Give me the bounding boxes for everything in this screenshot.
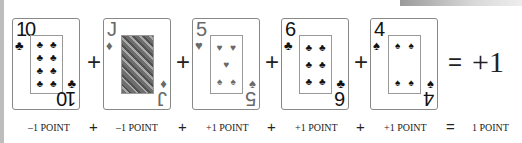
card-rank: 10	[58, 89, 76, 109]
card-five-of-hearts: 5 ♥ ♥♥ ♥ ♠♠ ♠ 5	[192, 18, 260, 110]
top-shadow	[400, 0, 522, 6]
jack-portrait-icon	[122, 36, 153, 93]
plus-sign: +	[176, 50, 190, 74]
left-border	[0, 0, 4, 143]
club-icon: ♣	[34, 53, 46, 63]
club-icon: ♣	[284, 39, 293, 52]
card-rank: 4	[374, 19, 383, 39]
club-icon: ♣	[15, 39, 24, 52]
spade-icon: ♠	[373, 39, 380, 52]
card-5-value: +1 POINT	[384, 121, 427, 135]
plus-sign: +	[178, 119, 187, 135]
card-four-of-spades: 4 ♠ ♠♠ ♠♠ ♠ 4	[370, 18, 438, 110]
plus-sign: +	[89, 119, 98, 135]
card-six-of-clubs: 6 ♣ ♣♣ ♣♣ ♣♣ ♣ 6	[281, 18, 349, 110]
club-icon: ♣	[47, 53, 59, 63]
plus-sign: +	[267, 119, 276, 135]
result-label: 1 POINT	[472, 121, 509, 135]
club-icon: ♣	[316, 77, 328, 87]
spade-icon: ♠	[405, 78, 417, 88]
card-ten-of-clubs: 10 ♣ ♣♣ ♣♣ ♣♣ ♣♣ ♣ 10	[12, 18, 80, 110]
spade-icon: ♠	[405, 41, 417, 51]
heart-icon: ♠	[227, 77, 239, 87]
card-rank: 5	[247, 89, 256, 109]
plus-sign: +	[87, 50, 101, 74]
club-icon: ♣	[316, 60, 328, 70]
club-icon: ♣	[303, 77, 315, 87]
card-rank: J	[159, 89, 167, 109]
card-rank: J	[107, 19, 115, 39]
card-rank: 6	[336, 89, 345, 109]
plus-sign: +	[265, 50, 279, 74]
club-icon: ♣	[34, 40, 46, 50]
heart-icon: ♠	[214, 77, 226, 87]
club-icon: ♣	[303, 60, 315, 70]
club-icon: ♣	[303, 43, 315, 53]
heart-icon: ♥	[227, 43, 239, 53]
plus-sign: +	[354, 50, 368, 74]
heart-icon: ♥	[195, 39, 203, 52]
card-rank: 4	[425, 89, 434, 109]
equals-sign: =	[448, 50, 462, 74]
heart-icon: ♥	[214, 43, 226, 53]
spade-icon: ♠	[392, 78, 404, 88]
equals-sign: =	[446, 119, 455, 135]
card-3-value: +1 POINT	[206, 121, 249, 135]
club-icon: ♣	[34, 79, 46, 89]
club-icon: ♣	[34, 66, 46, 76]
card-1-value: –1 POINT	[28, 121, 70, 135]
card-rank: 6	[285, 19, 294, 39]
plus-sign: +	[356, 119, 365, 135]
card-4-value: +1 POINT	[295, 121, 338, 135]
club-icon: ♣	[47, 66, 59, 76]
diamond-icon: ♦	[106, 39, 113, 52]
club-icon: ♣	[47, 40, 59, 50]
card-2-value: –1 POINT	[116, 121, 158, 135]
spade-icon: ♠	[392, 41, 404, 51]
club-icon: ♣	[316, 43, 328, 53]
card-rank: 5	[196, 19, 205, 39]
card-jack-of-diamonds: J ♦ ♦ J	[103, 18, 171, 110]
result-value: +1	[472, 47, 504, 77]
heart-icon: ♥	[213, 60, 240, 70]
